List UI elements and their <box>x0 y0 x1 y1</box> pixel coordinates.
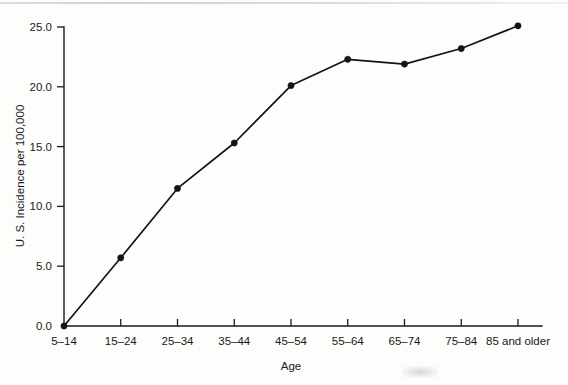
x-axis-title: Age <box>281 360 301 372</box>
y-axis-tick-labels: 25.020.015.010.05.00.0 <box>30 21 52 332</box>
x-axis-tick-labels: 5–1415–2425–3435–4445–5455–6465–7475–848… <box>51 335 550 347</box>
data-point-marker <box>458 45 464 51</box>
axis-lines <box>64 27 542 326</box>
x-tick-label: 15–24 <box>105 335 138 347</box>
x-tick-label: 25–34 <box>162 335 195 347</box>
x-tick-label: 85 and older <box>486 335 550 347</box>
x-tick-label: 75–84 <box>445 335 478 347</box>
x-tick-label: 35–44 <box>218 335 251 347</box>
y-tick-label: 25.0 <box>30 21 52 33</box>
data-point-marker <box>231 140 237 146</box>
x-tick-label: 65–74 <box>389 335 422 347</box>
data-point-marker <box>61 323 67 329</box>
incidence-line <box>64 26 518 326</box>
y-tick-label: 10.0 <box>30 200 52 212</box>
y-tick-label: 20.0 <box>30 81 52 93</box>
x-tick-label: 55–64 <box>332 335 365 347</box>
data-point-marker <box>345 56 351 62</box>
scan-artifact-top <box>0 2 568 4</box>
data-point-markers <box>61 23 521 329</box>
y-axis-tick-marks <box>57 27 64 266</box>
data-point-marker <box>401 61 407 67</box>
x-axis-tick-marks <box>121 319 518 326</box>
x-tick-label: 5–14 <box>51 335 77 347</box>
line-chart: 25.020.015.010.05.00.0 5–1415–2425–3435–… <box>0 0 568 385</box>
y-axis-title: U. S. Incidence per 100,000 <box>14 105 26 248</box>
y-tick-label: 0.0 <box>36 320 52 332</box>
data-point-marker <box>174 185 180 191</box>
chart-figure: 25.020.015.010.05.00.0 5–1415–2425–3435–… <box>0 0 568 385</box>
y-tick-label: 15.0 <box>30 141 52 153</box>
y-tick-label: 5.0 <box>36 260 52 272</box>
data-point-marker <box>118 255 124 261</box>
scan-artifact-footnote <box>402 366 438 378</box>
x-tick-label: 45–54 <box>275 335 308 347</box>
data-point-marker <box>515 23 521 29</box>
data-point-marker <box>288 83 294 89</box>
